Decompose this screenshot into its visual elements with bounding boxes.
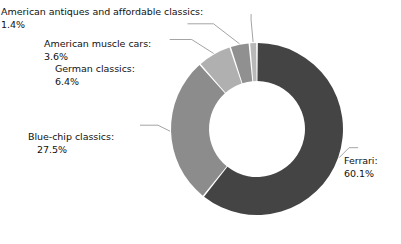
slice-value-text: 1.4% xyxy=(1,19,203,32)
slice-value-text: 60.1% xyxy=(344,168,378,181)
slice-label-text: American antiques and affordable classic… xyxy=(1,6,203,17)
slice-label-text: American muscle cars: xyxy=(44,38,151,49)
slice-value-text: 3.6% xyxy=(44,51,151,64)
slice-label-american-muscle-cars: American muscle cars: 3.6% xyxy=(44,38,151,63)
donut-chart xyxy=(0,0,401,244)
slice-label-american-antiques: American antiques and affordable classic… xyxy=(1,6,203,31)
slice-label-blue-chip-classics: Blue-chip classics: 27.5% xyxy=(28,131,114,156)
slice-label-ferrari: Ferrari: 60.1% xyxy=(344,155,378,180)
donut-slices-group xyxy=(171,43,343,215)
leader-line-american-antiques xyxy=(251,14,253,42)
slice-label-german-classics: German classics: 6.4% xyxy=(55,63,135,88)
slice-label-text: Blue-chip classics: xyxy=(28,131,114,142)
slice-label-text: Ferrari: xyxy=(344,155,378,166)
leader-line-german-classics xyxy=(170,40,214,54)
slice-label-text: German classics: xyxy=(55,63,135,74)
donut-slice-blue-chip-classics[interactable] xyxy=(171,65,227,196)
slice-value-text: 6.4% xyxy=(55,76,135,89)
leader-line-blue-chip-classics xyxy=(140,125,170,131)
slice-value-text: 27.5% xyxy=(37,144,114,157)
chart-canvas: American antiques and affordable classic… xyxy=(0,0,401,244)
